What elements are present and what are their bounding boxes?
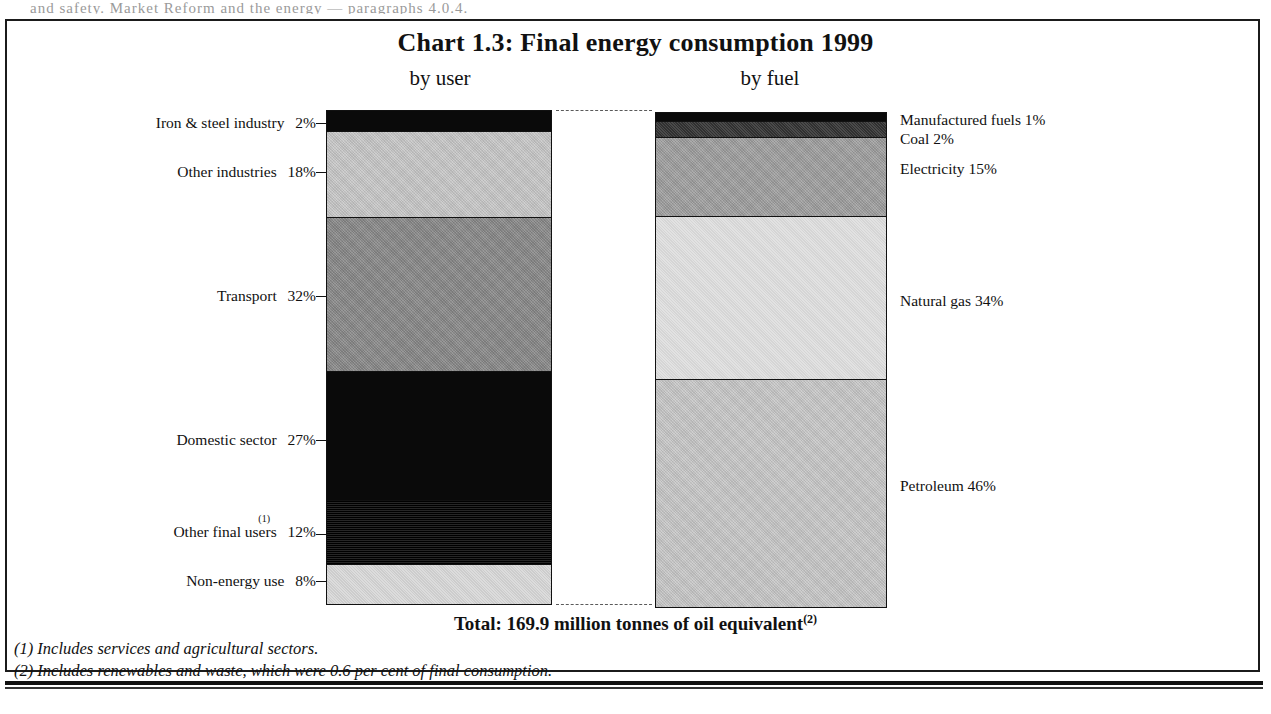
label-other-industries: Other industries 18%: [136, 163, 316, 181]
label-iron-and-steel-industry: Iron & steel industry 2%: [136, 114, 316, 132]
leader-tick: [316, 296, 326, 297]
segment-natural-gas: [656, 216, 886, 379]
subtitle-by-user: by user: [330, 66, 550, 91]
label-coal: Coal 2%: [900, 130, 954, 148]
leader-tick: [316, 534, 326, 535]
chart-page: and safety. Market Reform and the energy…: [0, 0, 1271, 714]
leader-tick: [316, 123, 326, 124]
stacked-bar-by-fuel: [655, 112, 887, 608]
segment-petroleum: [656, 379, 886, 607]
segment-manufactured-fuels: [656, 113, 886, 121]
chart-title: Chart 1.3: Final energy consumption 1999: [0, 28, 1271, 58]
chart-footnotes: (1) Includes services and agricultural s…: [14, 638, 552, 683]
chart-total-superscript: (2): [803, 612, 817, 626]
label-other-final-users-superscript: (1): [136, 514, 270, 523]
connector-line-bottom: [556, 604, 652, 605]
bottom-rule-secondary: [5, 687, 1263, 689]
leader-tick: [316, 581, 326, 582]
label-other-final-users: (1) Other final users 12%: [136, 514, 316, 541]
segment-non-energy-use: [327, 564, 551, 604]
label-non-energy-use-name: Non-energy use: [186, 572, 284, 590]
label-other-industries-name: Other industries: [177, 163, 276, 181]
segment-iron-and-steel-industry: [327, 111, 551, 131]
label-iron-and-steel-industry-name: Iron & steel industry: [156, 114, 285, 132]
page-top-bleed-text: and safety. Market Reform and the energy…: [30, 0, 1030, 14]
segment-electricity: [656, 137, 886, 217]
label-iron-and-steel-industry-pct: 2%: [295, 114, 316, 132]
label-non-energy-use: Non-energy use 8%: [136, 572, 316, 590]
connector-line-top: [556, 110, 652, 111]
leader-tick: [316, 440, 326, 441]
label-other-final-users-pct: 12%: [288, 523, 316, 541]
label-non-energy-use-pct: 8%: [295, 572, 316, 590]
subtitle-by-fuel: by fuel: [660, 66, 880, 91]
label-petroleum: Petroleum 46%: [900, 477, 996, 495]
footnote-2: (2) Includes renewables and waste, which…: [14, 660, 552, 682]
label-transport-name: Transport: [217, 287, 277, 305]
label-electricity: Electricity 15%: [900, 160, 997, 178]
stacked-bar-by-user: [326, 110, 552, 605]
label-transport-pct: 32%: [288, 287, 316, 305]
chart-total: Total: 169.9 million tonnes of oil equiv…: [0, 612, 1271, 635]
label-domestic-sector: Domestic sector 27%: [136, 431, 316, 449]
segment-other-final-users: [327, 500, 551, 564]
label-other-industries-pct: 18%: [288, 163, 316, 181]
segment-coal: [656, 121, 886, 137]
label-domestic-sector-name: Domestic sector: [176, 431, 276, 449]
label-domestic-sector-pct: 27%: [288, 431, 316, 449]
segment-domestic-sector: [327, 371, 551, 500]
label-natural-gas: Natural gas 34%: [900, 292, 1003, 310]
label-transport: Transport 32%: [136, 287, 316, 305]
label-manufactured-fuels: Manufactured fuels 1%: [900, 111, 1045, 129]
footnote-1: (1) Includes services and agricultural s…: [14, 638, 552, 660]
segment-transport: [327, 217, 551, 371]
leader-tick: [316, 172, 326, 173]
chart-total-text: Total: 169.9 million tonnes of oil equiv…: [454, 613, 803, 634]
bottom-rule: [5, 681, 1263, 685]
segment-other-industries: [327, 131, 551, 217]
label-other-final-users-name: Other final users: [173, 523, 276, 541]
